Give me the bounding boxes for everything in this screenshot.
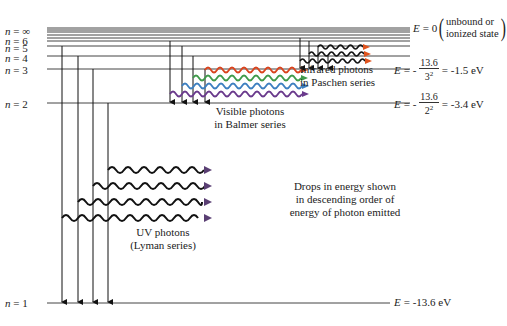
unbound-note-text: unbound or ionized state (446, 16, 499, 40)
energy-e0-value: = 0 (423, 22, 437, 34)
uv-photon-1 (108, 167, 204, 173)
unbound-note: ( unbound or ionized state ) (437, 16, 507, 40)
descending-order-note: Drops in energy shown in descending orde… (275, 180, 415, 219)
uv-arrowhead-4 (204, 214, 212, 222)
fraction-13.6-over-2sq: 13.6 22 (419, 92, 439, 116)
energy-e3-result: = -1.5 eV (442, 64, 484, 76)
energy-symbol: E (413, 22, 420, 34)
energy-label-e0: E = 0 ( unbound or ionized state ) (413, 16, 507, 40)
fraction-denominator: 22 (425, 103, 434, 116)
energy-e2-eq: = - (404, 98, 417, 110)
fraction-denominator: 32 (425, 69, 434, 82)
uv-photon-3 (78, 199, 202, 205)
energy-symbol: E (394, 64, 401, 76)
energy-label-e1: E = -13.6 eV (394, 296, 451, 308)
visible-photon-green (193, 76, 301, 81)
fraction-numerator: 13.6 (419, 58, 439, 69)
paschen-caption-line2: in Paschen series (300, 76, 375, 88)
level-label-n3: n = 3 (5, 64, 28, 76)
visible-photon-violet (170, 92, 302, 97)
fraction-13.6-over-3sq: 13.6 32 (419, 58, 439, 82)
ir-photon-2 (309, 52, 364, 56)
energy-e3-eq: = - (404, 64, 417, 76)
note-line3: energy of photon emitted (290, 206, 401, 218)
lyman-arrowheads (204, 166, 212, 222)
left-paren: ( (439, 16, 444, 40)
visible-arrowhead-violet (302, 91, 309, 97)
energy-label-e2: E = - 13.6 22 = -3.4 eV (394, 92, 484, 116)
uv-arrowhead-3 (204, 198, 212, 206)
level-label-n1: n = 1 (5, 297, 28, 309)
uv-photon-4 (62, 215, 198, 221)
level-label-n4: n = 4 (5, 52, 28, 64)
visible-photon-red (205, 68, 301, 73)
paschen-photons (300, 45, 365, 63)
balmer-caption: Visible photons in Balmer series (200, 105, 300, 131)
unbound-note-line1: unbound or (446, 16, 494, 27)
paschen-caption: Infrared photons in Paschen series (300, 63, 390, 89)
balmer-photons (170, 68, 302, 97)
energy-e2-result: = -3.4 eV (442, 98, 484, 110)
balmer-caption-line1: Visible photons (216, 105, 285, 117)
paschen-caption-line1: Infrared photons (300, 63, 373, 75)
uv-arrowhead-2 (204, 182, 212, 190)
fraction-numerator: 13.6 (419, 92, 439, 103)
level-label-n2: n = 2 (5, 98, 28, 110)
balmer-caption-line2: in Balmer series (214, 118, 285, 130)
right-paren: ) (500, 16, 505, 40)
note-line1: Drops in energy shown (294, 180, 396, 192)
visible-photon-blue (182, 84, 302, 89)
uv-arrowhead-1 (204, 166, 212, 174)
lyman-caption: UV photons (Lyman series) (118, 226, 208, 252)
ir-arrowhead-1 (363, 44, 370, 50)
energy-e1-result: = -13.6 eV (404, 296, 451, 308)
energy-symbol: E (394, 296, 401, 308)
lyman-arrows (62, 46, 108, 302)
unbound-note-line2: ionized state (446, 28, 499, 39)
note-line2: in descending order of (296, 193, 395, 205)
energy-symbol: E (394, 98, 401, 110)
energy-label-e3: E = - 13.6 32 = -1.5 eV (394, 58, 484, 82)
lyman-caption-line1: UV photons (136, 226, 189, 238)
lyman-caption-line2: (Lyman series) (130, 239, 196, 251)
uv-photon-2 (93, 183, 205, 189)
lyman-photons (62, 167, 205, 221)
